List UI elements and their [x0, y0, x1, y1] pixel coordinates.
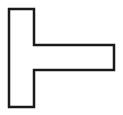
figure-canvas — [0, 0, 123, 115]
tack-shape-svg — [0, 0, 123, 115]
